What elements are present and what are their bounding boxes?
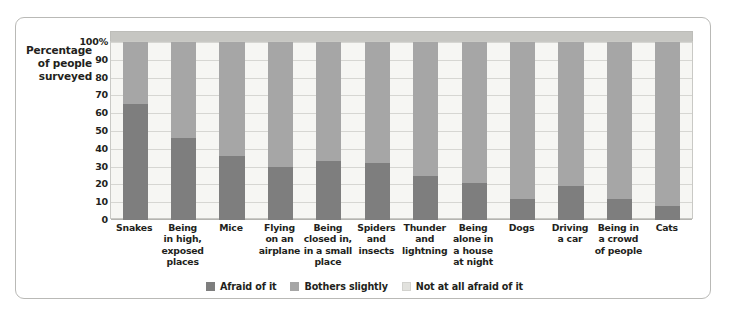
bar-column[interactable] xyxy=(413,42,438,218)
category-label-line: place xyxy=(304,256,352,267)
bar-segment[interactable] xyxy=(413,176,438,221)
y-axis-tick-labels: 100%9080706050403020100 xyxy=(78,40,108,218)
category-label-line: Dogs xyxy=(497,222,545,233)
x-axis-category-label: Thunderandlightning xyxy=(401,222,449,256)
y-axis-tick-label: 50 xyxy=(78,125,108,136)
bar-column[interactable] xyxy=(462,42,487,218)
figure-container: Percentageof peoplesurveyed 100%90807060… xyxy=(0,0,729,323)
bar-segment[interactable] xyxy=(171,42,196,138)
category-label-line: exposed xyxy=(158,245,206,256)
bar-column[interactable] xyxy=(558,42,583,218)
legend-item[interactable]: Bothers slightly xyxy=(290,281,387,292)
legend-swatch-icon xyxy=(206,282,215,291)
bar-column[interactable] xyxy=(316,42,341,218)
gridline xyxy=(111,219,692,220)
category-label-line: insects xyxy=(352,245,400,256)
chart-legend: Afraid of itBothers slightlyNot at all a… xyxy=(0,281,729,292)
legend-item[interactable]: Not at all afraid of it xyxy=(402,281,523,292)
x-axis-category-label: Mice xyxy=(207,222,255,233)
y-axis-tick-label: 100% xyxy=(78,36,108,47)
bar-column[interactable] xyxy=(365,42,390,218)
bar-segment[interactable] xyxy=(365,163,390,220)
category-label-line: and xyxy=(352,233,400,244)
x-axis-category-label: Being ina crowdof people xyxy=(594,222,642,256)
bar-segment[interactable] xyxy=(316,42,341,161)
bar-column[interactable] xyxy=(219,42,244,218)
bar-segment[interactable] xyxy=(171,138,196,220)
category-label-line: Snakes xyxy=(110,222,158,233)
category-label-line: alone in xyxy=(449,233,497,244)
category-label-line: Driving xyxy=(546,222,594,233)
bar-segment[interactable] xyxy=(268,42,293,167)
x-axis-category-label: Cats xyxy=(643,222,691,233)
legend-swatch-icon xyxy=(290,282,299,291)
bar-segment[interactable] xyxy=(607,199,632,220)
category-label-line: on an xyxy=(255,233,303,244)
category-label-line: Spiders xyxy=(352,222,400,233)
bar-segment[interactable] xyxy=(123,42,148,104)
bar-segment[interactable] xyxy=(607,42,632,199)
legend-label: Not at all afraid of it xyxy=(416,281,523,292)
bar-segment[interactable] xyxy=(558,42,583,186)
x-axis-category-label: Beingin high,exposedplaces xyxy=(158,222,206,268)
bar-segment[interactable] xyxy=(558,186,583,220)
category-label-line: a car xyxy=(546,233,594,244)
bar-segment[interactable] xyxy=(219,42,244,156)
x-axis-category-label: Drivinga car xyxy=(546,222,594,245)
bar-column[interactable] xyxy=(607,42,632,218)
bar-segment[interactable] xyxy=(655,206,680,220)
bar-column[interactable] xyxy=(268,42,293,218)
y-axis-tick-label: 40 xyxy=(78,142,108,153)
y-axis-tick-label: 70 xyxy=(78,89,108,100)
x-axis-category-label: Snakes xyxy=(110,222,158,233)
bar-column[interactable] xyxy=(655,42,680,218)
category-label-line: closed in, xyxy=(304,233,352,244)
x-axis-category-label: Beingclosed in,in a smallplace xyxy=(304,222,352,268)
category-label-line: at night xyxy=(449,256,497,267)
category-label-line: Being xyxy=(158,222,206,233)
y-axis-tick-label: 0 xyxy=(78,214,108,225)
category-label-line: airplane xyxy=(255,245,303,256)
category-label-line: Being xyxy=(449,222,497,233)
legend-item[interactable]: Afraid of it xyxy=(206,281,276,292)
y-axis-tick-label: 10 xyxy=(78,196,108,207)
category-label-line: Mice xyxy=(207,222,255,233)
bar-segment[interactable] xyxy=(219,156,244,220)
bar-segment[interactable] xyxy=(462,183,487,220)
bar-segment[interactable] xyxy=(123,104,148,220)
legend-label: Afraid of it xyxy=(220,281,276,292)
category-label-line: lightning xyxy=(401,245,449,256)
bar-column[interactable] xyxy=(123,42,148,218)
bar-column[interactable] xyxy=(171,42,196,218)
bar-segment[interactable] xyxy=(365,42,390,163)
x-axis-category-label: Spidersandinsects xyxy=(352,222,400,256)
bar-segment[interactable] xyxy=(413,42,438,176)
bar-segment[interactable] xyxy=(510,42,535,199)
category-label-line: Cats xyxy=(643,222,691,233)
category-label-line: of people xyxy=(594,245,642,256)
category-label-line: Being xyxy=(304,222,352,233)
plot-canvas xyxy=(110,41,693,219)
category-label-line: a house xyxy=(449,245,497,256)
x-axis-category-label: Dogs xyxy=(497,222,545,233)
bar-segment[interactable] xyxy=(268,167,293,220)
x-axis-category-labels: SnakesBeingin high,exposedplacesMiceFlyi… xyxy=(110,222,693,280)
bar-segment[interactable] xyxy=(316,161,341,220)
bar-column[interactable] xyxy=(510,42,535,218)
category-label-line: and xyxy=(401,233,449,244)
bar-series-group xyxy=(111,42,692,218)
bar-segment[interactable] xyxy=(462,42,487,183)
category-label-line: in high, xyxy=(158,233,206,244)
bar-segment[interactable] xyxy=(655,42,680,206)
category-label-line: in a small xyxy=(304,245,352,256)
category-label-line: Thunder xyxy=(401,222,449,233)
y-axis-tick-label: 90 xyxy=(78,53,108,64)
y-axis-tick-label: 80 xyxy=(78,71,108,82)
category-label-line: a crowd xyxy=(594,233,642,244)
bar-segment[interactable] xyxy=(510,199,535,220)
y-axis-tick-label: 20 xyxy=(78,178,108,189)
category-label-line: places xyxy=(158,256,206,267)
legend-swatch-icon xyxy=(402,282,411,291)
category-label-line: Being in xyxy=(594,222,642,233)
x-axis-category-label: Flyingon anairplane xyxy=(255,222,303,256)
